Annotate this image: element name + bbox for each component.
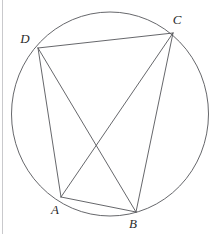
- vertex-label-A: A: [50, 202, 59, 217]
- vertex-label-D: D: [19, 31, 30, 46]
- segment-DB-diagonal: [38, 48, 136, 212]
- circumscribed-circle: [12, 12, 209, 216]
- segment-DC: [38, 33, 173, 48]
- vertex-label-C: C: [173, 12, 182, 27]
- vertex-label-B: B: [129, 216, 137, 231]
- segment-AB: [61, 197, 136, 212]
- segment-DA: [38, 48, 61, 197]
- geometry-figure: A B C D: [0, 0, 222, 234]
- geometry-canvas: A B C D: [0, 0, 222, 234]
